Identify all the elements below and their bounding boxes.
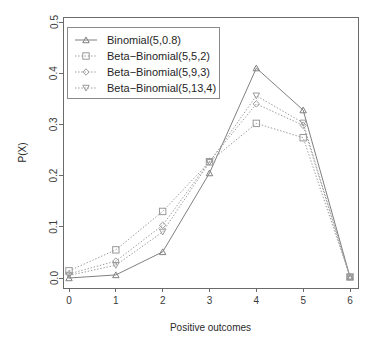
series-line-2 <box>69 104 350 277</box>
probability-mass-chart: Binomial(5,0.8)Beta−Binomial(5,5,2)Beta−… <box>0 0 371 344</box>
data-point-marker <box>159 222 165 228</box>
x-tick-label: 2 <box>160 295 166 306</box>
y-tick-label: 0.4 <box>49 66 60 80</box>
y-tick-label: 0.2 <box>49 168 60 182</box>
data-point-marker <box>253 101 259 107</box>
y-tick-label: 0.1 <box>49 219 60 233</box>
y-axis-title: P(X) <box>17 143 28 163</box>
x-tick-label: 1 <box>113 295 119 306</box>
data-point-marker <box>159 208 165 214</box>
series-line-1 <box>69 123 350 277</box>
x-axis-title: Positive outcomes <box>170 322 251 333</box>
series-2 <box>66 101 353 280</box>
series-1 <box>66 120 353 280</box>
x-tick-label: 5 <box>300 295 306 306</box>
y-tick-label: 0.0 <box>49 271 60 285</box>
series-line-3 <box>69 96 350 277</box>
y-tick-label: 0.3 <box>49 117 60 131</box>
y-tick-label: 0.5 <box>49 15 60 29</box>
data-point-marker <box>159 229 165 235</box>
legend-label: Beta−Binomial(5,5,2) <box>107 50 210 62</box>
series-line-0 <box>69 68 350 278</box>
legend-label: Beta−Binomial(5,9,3) <box>107 66 210 78</box>
legend-label: Binomial(5,0.8) <box>107 34 181 46</box>
x-tick-label: 6 <box>347 295 353 306</box>
data-point-marker <box>253 93 259 99</box>
x-tick-label: 4 <box>254 295 260 306</box>
series-3 <box>66 93 353 280</box>
data-point-marker <box>300 135 306 141</box>
chart-legend[interactable]: Binomial(5,0.8)Beta−Binomial(5,5,2)Beta−… <box>68 28 220 99</box>
chart-container: Binomial(5,0.8)Beta−Binomial(5,5,2)Beta−… <box>0 0 371 344</box>
legend-label: Beta−Binomial(5,13,4) <box>107 82 216 94</box>
x-tick-label: 3 <box>207 295 213 306</box>
x-tick-label: 0 <box>66 295 72 306</box>
